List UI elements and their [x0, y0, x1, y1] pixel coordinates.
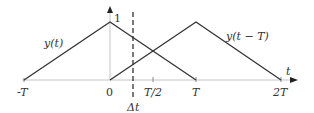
curve-label-y-t-minus-T: y(t − T) — [225, 30, 269, 43]
triangle-signals-diagram: y(t) y(t − T) 1 t -T 0 T/2 T 2T Δt — [0, 0, 314, 113]
axis-label-t: t — [286, 65, 291, 78]
y-axis-arrow-icon — [107, 6, 113, 13]
tick-label-zero: 0 — [106, 86, 113, 99]
peak-label: 1 — [114, 12, 121, 25]
tick-label-t-half: T/2 — [144, 86, 162, 99]
delta-t-label: Δt — [126, 101, 140, 113]
tick-label-2t: 2T — [272, 86, 289, 99]
tick-label-neg-t: -T — [17, 86, 29, 99]
tick-label-t: T — [192, 86, 201, 99]
curve-label-y-t: y(t) — [43, 37, 63, 50]
t-axis-arrow-icon — [290, 77, 298, 83]
